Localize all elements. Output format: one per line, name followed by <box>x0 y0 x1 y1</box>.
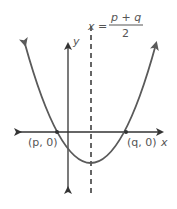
parabola-diagram: y x (p, 0) (q, 0) x = p + q 2 <box>0 0 177 209</box>
right-x-intercept-point <box>124 130 128 134</box>
equation-equals: = <box>98 20 107 33</box>
equation-denominator: 2 <box>122 27 129 40</box>
y-axis-label: y <box>72 35 80 48</box>
left-x-intercept-point <box>55 130 59 134</box>
x-axis-label: x <box>160 136 168 149</box>
equation-numerator: p + q <box>110 11 141 24</box>
left-intercept-label: (p, 0) <box>28 136 58 149</box>
equation-lhs: x <box>87 20 95 33</box>
axis-of-symmetry-equation: x = p + q 2 <box>87 11 143 40</box>
right-intercept-label: (q, 0) <box>127 136 157 149</box>
